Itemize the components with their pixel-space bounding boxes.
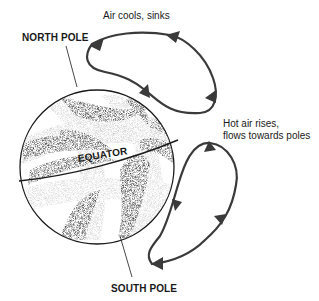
north-pole-label: NORTH POLE bbox=[22, 32, 89, 43]
hot-air-label-line2: flows towards poles bbox=[223, 130, 310, 142]
globe-texture bbox=[20, 95, 175, 240]
arrow-north-4 bbox=[205, 90, 216, 103]
northern-cell-arrows bbox=[90, 31, 216, 103]
arrow-south-1 bbox=[151, 257, 163, 270]
northern-circulation-cell bbox=[87, 33, 216, 114]
north-pole-pointer bbox=[66, 46, 77, 87]
circulation-diagram: NORTH POLE Air cools, sinks Hot air rise… bbox=[0, 0, 319, 301]
arrow-north-2 bbox=[166, 31, 180, 43]
south-pole-label: SOUTH POLE bbox=[111, 283, 177, 294]
south-pole-pointer bbox=[120, 236, 132, 277]
diagram-graphics bbox=[0, 0, 319, 301]
hot-air-label-line1: Hot air rises, bbox=[223, 118, 279, 130]
arrow-south-2 bbox=[172, 199, 182, 211]
air-cools-label: Air cools, sinks bbox=[103, 10, 170, 22]
